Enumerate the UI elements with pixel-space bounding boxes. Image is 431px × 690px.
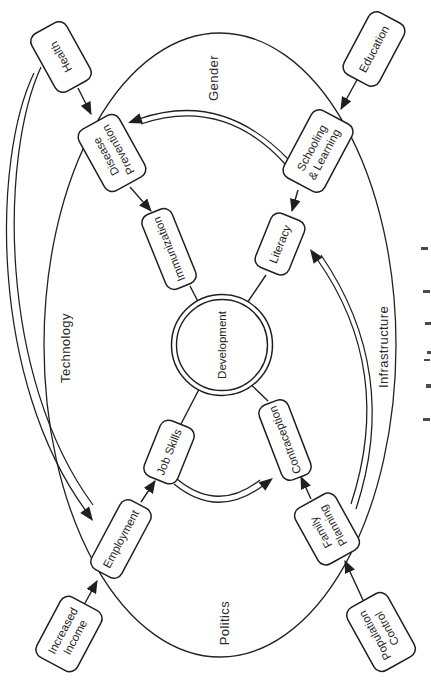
double-arrow-schooling-to-disease-prevention [128,111,289,165]
development-label: Development [216,310,228,379]
arrow-disease-prevention-to-immunization [130,187,151,211]
node-education: Education [340,9,408,90]
arrow-health-to-disease-prevention [78,88,91,114]
arrow-increased-income-to-employment [84,581,97,605]
cut-off-caption-fragments [421,247,431,421]
schooling-learning-box [280,107,356,196]
arrow-education-to-schooling [341,78,358,109]
diagram-page: Health Disease Prevention Immunization E… [0,0,431,690]
arrowhead [128,113,143,123]
arrowhead [259,478,274,491]
node-population-control: Population Control [343,589,418,674]
population-control-box [343,589,418,674]
context-label-gender: Gender [206,55,221,101]
context-label-technology: Technology [58,313,73,383]
node-schooling-learning: Schooling & Learning [280,107,356,196]
arrowhead [310,249,323,264]
node-health: Health [28,18,95,95]
arrow-population-control-to-family-planning [345,561,363,600]
node-disease-prevention: Disease Prevention [75,111,149,195]
node-immunization: Immunization [139,206,199,292]
double-arrow-job-skills-to-contraception [174,478,273,502]
arrow-employment-to-job-skills [141,481,155,502]
node-contraception: Contraception [256,397,314,483]
node-job-skills: Job Skills [141,417,197,486]
context-label-infrastructure: Infrastructure [376,306,391,388]
node-literacy: Literacy [252,210,307,277]
context-label-politics: Politics [217,601,232,645]
double-arrow-family-planning-to-literacy [310,249,372,509]
development-concept-diagram: Health Disease Prevention Immunization E… [0,0,431,690]
arrow-schooling-to-literacy [292,190,298,211]
arrow-family-planning-to-contraception [301,477,311,499]
disease-prevention-box [75,111,149,195]
node-increased-income: Increased Income [33,593,106,675]
node-employment: Employment [88,497,155,582]
arrowhead [80,507,93,522]
rotated-diagram-stage: Health Disease Prevention Immunization E… [0,0,431,690]
node-development: Development [172,295,273,396]
